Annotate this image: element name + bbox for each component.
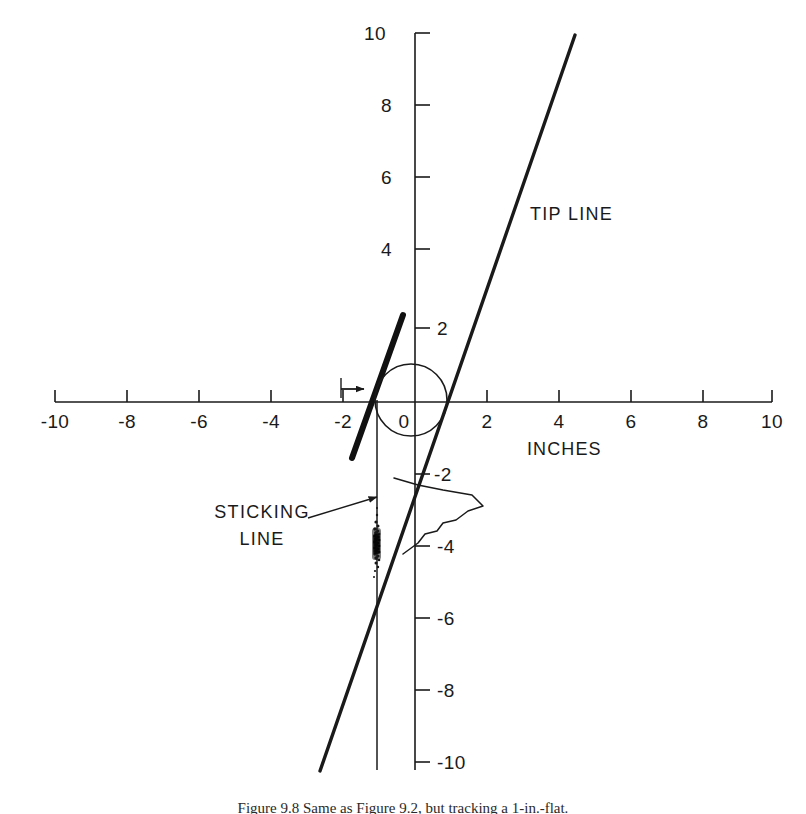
- x-tick-label--8: -8: [118, 412, 136, 431]
- y-tick-label--10: -10: [437, 753, 466, 772]
- x-tick-label-10: 10: [761, 412, 783, 431]
- sticking-line-leader: [308, 497, 377, 518]
- figure-caption: Figure 9.8 Same as Figure 9.2, but track…: [0, 800, 806, 814]
- y-tick-label--2: -2: [434, 465, 452, 484]
- figure-container: -10 -8 -6 -4 -2 0 2 4 6 8 10 10 8 6 4 2 …: [0, 0, 806, 814]
- y-tick-label-6: 6: [381, 168, 392, 187]
- x-axis-title: INCHES: [527, 440, 602, 458]
- x-tick-label-4: 4: [554, 412, 565, 431]
- y-tick-label--8: -8: [437, 681, 455, 700]
- y-tick-label-10: 10: [364, 24, 386, 43]
- advance-arrow: [341, 378, 364, 398]
- x-axis-ticks: [55, 390, 772, 402]
- x-tick-label-2: 2: [482, 412, 493, 431]
- x-tick-label--10: -10: [41, 412, 70, 431]
- sticking-line-label-1: STICKING: [214, 503, 309, 521]
- x-tick-label--4: -4: [262, 412, 280, 431]
- x-tick-label-0: 0: [399, 412, 410, 431]
- x-tick-label-8: 8: [698, 412, 709, 431]
- series-bit-circle: [375, 364, 447, 436]
- y-tick-label-4: 4: [381, 240, 392, 259]
- y-tick-label--4: -4: [437, 537, 455, 556]
- sticking-line-label-2: LINE: [239, 530, 284, 548]
- y-tick-label--6: -6: [437, 609, 455, 628]
- plot-canvas: [0, 0, 806, 814]
- x-axis: [55, 390, 772, 402]
- y-tick-label-8: 8: [381, 96, 392, 115]
- x-tick-label--2: -2: [334, 412, 352, 431]
- tip-line-label: TIP LINE: [530, 205, 613, 223]
- x-tick-label--6: -6: [190, 412, 208, 431]
- y-axis-ticks: [415, 33, 430, 762]
- y-tick-label-2: 2: [437, 319, 448, 338]
- x-tick-label-6: 6: [626, 412, 637, 431]
